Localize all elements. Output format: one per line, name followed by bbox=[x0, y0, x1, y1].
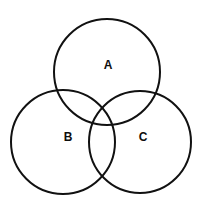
venn-label-b: B bbox=[64, 130, 73, 144]
venn-label-c: C bbox=[139, 130, 148, 144]
venn-label-a: A bbox=[104, 58, 113, 72]
venn-diagram-figure: A B C bbox=[0, 0, 204, 205]
venn-diagram-canvas: A B C bbox=[0, 0, 204, 205]
